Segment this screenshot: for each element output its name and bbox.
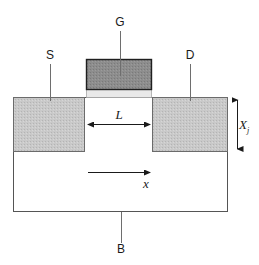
gate-electrode-region — [87, 60, 152, 90]
junction-depth-subscript: j — [246, 126, 250, 135]
mosfet-cross-section-figure: G S D B L X j x — [0, 0, 259, 265]
drain-terminal-label: D — [186, 48, 195, 62]
source-terminal-label: S — [46, 48, 54, 62]
x-axis-label: x — [142, 176, 149, 191]
body-terminal-label: B — [117, 242, 125, 256]
drain-diffusion-region — [153, 98, 228, 152]
gate-terminal-label: G — [115, 15, 124, 29]
source-diffusion-region — [14, 98, 85, 152]
channel-length-label: L — [114, 107, 122, 122]
gate-oxide-layer — [87, 90, 152, 98]
